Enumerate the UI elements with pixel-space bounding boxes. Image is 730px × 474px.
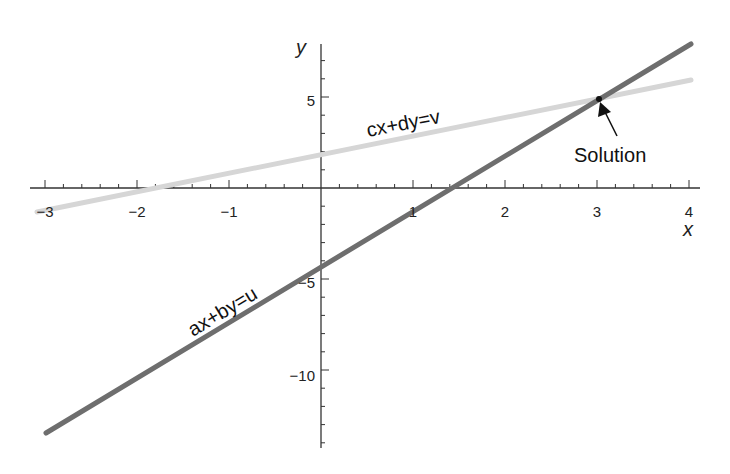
x-axis-label: x [682, 218, 694, 240]
line-ax-by-u [46, 44, 691, 433]
y-tick-label: −10 [290, 367, 315, 384]
x-tick-label: −3 [36, 203, 53, 220]
x-tick-label: 2 [501, 203, 509, 220]
x-tick-label: 1 [409, 203, 417, 220]
y-axis [321, 44, 329, 448]
x-axis [30, 180, 700, 188]
y-tick-label: −5 [298, 274, 315, 291]
solution-label: Solution [574, 144, 646, 166]
x-tick-label: −1 [220, 203, 237, 220]
y-axis-label: y [294, 36, 307, 58]
solution-point [596, 96, 602, 102]
y-tick-label: 5 [307, 92, 315, 109]
chart-canvas: −3 −2 −1 1 2 3 4 5 −5 −10 x y cx+dy=v ax… [0, 0, 730, 474]
x-tick-label: 3 [593, 203, 601, 220]
arrow-icon [598, 102, 617, 136]
x-tick-label: −2 [128, 203, 145, 220]
